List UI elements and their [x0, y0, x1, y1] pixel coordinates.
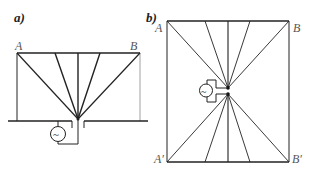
fan-wire: [228, 94, 250, 162]
point-a-label: A: [14, 39, 23, 53]
point-b-prime-label: B′: [292, 152, 302, 166]
fan-wire: [78, 53, 140, 119]
point-b-label: B: [130, 39, 138, 53]
panel-b: b) A B A′ B′ ~: [146, 10, 302, 166]
fan-wire: [55, 53, 78, 119]
panel-a: a) A B ~: [8, 10, 148, 144]
fan-wire: [228, 21, 289, 88]
fan-wire: [205, 21, 228, 88]
point-a-label: A: [154, 21, 163, 35]
fan-wire: [167, 94, 228, 162]
point-a-prime-label: A′: [153, 152, 164, 166]
generator-symbol: ~: [53, 128, 59, 140]
panel-a-label: a): [14, 10, 25, 25]
feed-point: [77, 118, 80, 121]
fan-wire: [205, 94, 228, 162]
fan-wire: [167, 21, 228, 88]
fan-wire: [17, 53, 78, 119]
antenna-diagrams: a) A B ~ b) A B A′ B′: [0, 0, 313, 170]
fan-wire: [78, 53, 100, 119]
fan-wire: [228, 94, 289, 162]
generator-symbol: ~: [201, 86, 207, 97]
fan-wire: [228, 21, 250, 88]
point-b-label: B: [293, 21, 301, 35]
